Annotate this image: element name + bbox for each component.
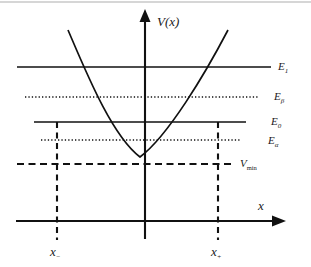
x-axis-arrow-icon xyxy=(272,216,286,227)
energy-level-label-Ebeta: Eβ xyxy=(273,90,285,105)
energy-level-label-E1: E1 xyxy=(277,60,288,75)
x-axis-label: x xyxy=(257,198,264,213)
y-axis-label: V(x) xyxy=(157,14,179,29)
potential-curve xyxy=(68,30,228,157)
energy-level-label-Vmin: Vmin xyxy=(240,157,258,171)
turning-point-label-x-plus: x+ xyxy=(210,244,222,261)
potential-energy-diagram: E1 Eβ E0 Eα Vmin x− x+ x V(x) xyxy=(0,0,311,267)
figure-container: E1 Eβ E0 Eα Vmin x− x+ x V(x) xyxy=(0,0,311,267)
energy-level-label-E0: E0 xyxy=(270,115,282,130)
turning-point-label-x-minus: x− xyxy=(49,244,61,261)
energy-level-label-Ealpha: Eα xyxy=(267,134,279,149)
y-axis-arrow-icon xyxy=(140,9,151,22)
